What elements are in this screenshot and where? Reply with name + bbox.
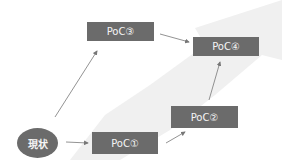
poc2-node: PoC② [171,106,238,128]
poc1-label: PoC① [111,138,139,149]
poc2-label: PoC② [191,112,219,123]
poc1-node: PoC① [92,132,158,154]
poc3-label: PoC③ [107,26,135,37]
poc3-node: PoC③ [87,22,154,41]
arrow-poc3-to-poc4 [160,34,189,42]
poc4-node: PoC④ [193,37,259,56]
current-state-node: 現状 [17,128,58,158]
arrow-poc1-to-poc2 [166,132,185,143]
poc4-label: PoC④ [212,41,240,52]
current-state-label: 現状 [28,136,48,151]
arrow-genjo-to-poc3 [55,51,97,117]
